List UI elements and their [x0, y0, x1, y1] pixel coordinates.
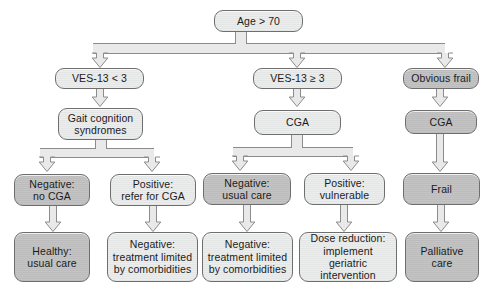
- node-cga-middle[interactable]: CGA: [254, 110, 341, 135]
- node-positive-vulnerable[interactable]: Positive: vulnerable: [304, 173, 385, 205]
- node-cga-right[interactable]: CGA: [405, 110, 477, 134]
- node-label-line-1: Negative:: [225, 238, 270, 250]
- node-label-line-2: refer for CGA: [121, 190, 185, 202]
- node-negative-usual-care[interactable]: Negative: usual care: [203, 173, 291, 205]
- edge-cga-right-to-frail: [431, 134, 449, 174]
- edge-negative-usual-care-to-negative-comorbidities: [238, 204, 256, 234]
- node-label-line-1: Palliative: [420, 245, 463, 257]
- arrowhead-cga-to-positive-vulnerable: [342, 155, 360, 173]
- arrowhead-gait-to-positive-refer: [143, 156, 161, 174]
- node-label: Frail: [431, 183, 452, 195]
- arrowhead-cga-to-negative-usual-care: [231, 155, 249, 173]
- node-label-line-1: Negative:: [29, 178, 74, 190]
- node-label-line-1: Negative:: [224, 177, 269, 189]
- edge-positive-vulnerable-to-dose-reduction: [335, 204, 353, 234]
- node-gait-cognition-syndromes[interactable]: Gait cognition syndromes: [58, 108, 143, 140]
- node-palliative-care[interactable]: Palliative care: [405, 232, 479, 282]
- node-label-line-2: implement geriatric: [303, 245, 393, 270]
- node-ves13-greater-equal-3[interactable]: VES-13 ≥ 3: [253, 68, 342, 89]
- flowchart-canvas: Age > 70 VES-13 < 3 VES-13 ≥ 3 Obvious f…: [0, 0, 488, 289]
- edge-obvious-frail-to-cga: [431, 89, 449, 109]
- node-label: CGA: [429, 116, 452, 128]
- edge-ves-ge3-to-cga: [288, 89, 306, 109]
- node-label-line-2: no CGA: [33, 190, 71, 202]
- edge-negative-no-cga-to-healthy: [44, 206, 62, 234]
- node-negative-treatment-limited-middle[interactable]: Negative: treatment limited by comorbidi…: [202, 232, 293, 282]
- node-obvious-frail[interactable]: Obvious frail: [403, 68, 479, 89]
- node-label-line-3: by comorbidities: [114, 263, 191, 275]
- edge-frail-to-palliative-care: [432, 204, 450, 234]
- node-label-line-2: care: [432, 257, 453, 269]
- node-ves13-less-than-3[interactable]: VES-13 < 3: [55, 68, 144, 89]
- node-negative-no-cga[interactable]: Negative: no CGA: [14, 174, 90, 206]
- node-label: VES-13 < 3: [72, 72, 127, 84]
- node-label-line-1: Healthy:: [32, 245, 71, 257]
- node-label: VES-13 ≥ 3: [270, 72, 325, 84]
- node-label-line-1: Positive:: [133, 178, 174, 190]
- node-label-line-1: Negative:: [130, 238, 175, 250]
- node-label: CGA: [286, 116, 309, 128]
- node-frail[interactable]: Frail: [403, 173, 480, 205]
- node-dose-reduction-geriatric-intervention[interactable]: Dose reduction: implement geriatric inte…: [299, 232, 397, 282]
- node-negative-treatment-limited-left[interactable]: Negative: treatment limited by comorbidi…: [107, 232, 198, 282]
- node-label-line-1: Gait cognition: [68, 112, 134, 124]
- edge-positive-refer-to-negative-comorbidities: [144, 206, 162, 234]
- node-label-line-2: treatment limited: [113, 251, 192, 263]
- node-age-over-70[interactable]: Age > 70: [214, 10, 303, 32]
- arrowhead-gait-to-negative-no-cga: [38, 156, 56, 174]
- node-label-line-3: intervention: [320, 269, 375, 281]
- node-label-line-2: usual care: [27, 257, 76, 269]
- node-label: Age > 70: [237, 15, 280, 27]
- node-label-line-1: Dose reduction:: [310, 232, 385, 244]
- node-label-line-1: Positive:: [324, 177, 365, 189]
- node-positive-refer-for-cga[interactable]: Positive: refer for CGA: [110, 174, 196, 206]
- node-label-line-2: treatment limited: [208, 251, 287, 263]
- node-label-line-2: vulnerable: [320, 189, 369, 201]
- node-label-line-2: syndromes: [74, 124, 126, 136]
- node-label: Obvious frail: [411, 72, 471, 84]
- node-label-line-3: by comorbidities: [209, 263, 286, 275]
- node-healthy-usual-care[interactable]: Healthy: usual care: [14, 232, 90, 282]
- node-label-line-2: usual care: [222, 189, 271, 201]
- edge-ves-lt3-to-gait: [91, 89, 109, 109]
